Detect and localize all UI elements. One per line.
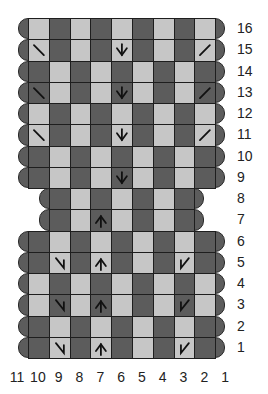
stitch-cell-dark — [49, 18, 71, 40]
stitch-cell-light — [153, 39, 175, 61]
row-number-label: 4 — [237, 276, 245, 290]
stitch-cell-light — [111, 294, 133, 316]
double-decrease-icon — [112, 168, 132, 188]
stitch-cell-dark — [153, 316, 175, 338]
stitch-cell-dark — [132, 188, 154, 210]
stitch-cell-dark — [132, 103, 154, 125]
stitch-cell-light — [174, 337, 196, 359]
row-number-label: 11 — [237, 127, 252, 141]
stitch-cell-light — [28, 39, 50, 61]
row-number-label: 10 — [237, 149, 253, 163]
stitch-cell-dark — [28, 167, 50, 189]
stitch-cell-dark — [70, 231, 92, 253]
stitch-cell-light — [174, 61, 196, 83]
stitch-cell-dark — [90, 39, 112, 61]
right-increase-icon — [50, 338, 70, 358]
double-increase-icon — [91, 210, 111, 230]
row-number-label: 14 — [237, 64, 253, 78]
stitch-cell-light — [111, 18, 133, 40]
column-number-label: 4 — [159, 370, 167, 384]
k2tog-decrease-icon — [195, 40, 215, 60]
stitch-cell-dark — [174, 39, 196, 61]
row-number-label: 15 — [237, 42, 253, 56]
stitch-cell-dark — [132, 273, 154, 295]
stitch-cell-dark — [174, 103, 196, 125]
stitch-cell-light — [153, 103, 175, 125]
stitch-cell-light — [194, 273, 216, 295]
double-decrease-icon — [112, 125, 132, 145]
stitch-cell-light — [28, 273, 50, 295]
knitting-chart: 161514131211109876543211110987654321 — [0, 0, 268, 394]
column-number-label: 6 — [117, 370, 125, 384]
right-increase-icon — [50, 253, 70, 273]
stitch-cell-light — [90, 167, 112, 189]
stitch-cell-dark — [194, 252, 216, 274]
column-number-label: 8 — [76, 370, 84, 384]
stitch-cell-dark — [28, 252, 50, 274]
stitch-cell-dark — [132, 39, 154, 61]
stitch-cell-dark — [153, 337, 175, 359]
stitch-cell-dark — [90, 124, 112, 146]
row-number-label: 7 — [237, 212, 245, 226]
column-number-label: 9 — [55, 370, 63, 384]
stitch-cell-dark — [28, 82, 50, 104]
stitch-cell-light — [90, 61, 112, 83]
double-decrease-icon — [112, 83, 132, 103]
row-number-label: 13 — [237, 85, 253, 99]
stitch-cell-dark — [174, 124, 196, 146]
row-number-label: 6 — [237, 234, 245, 248]
row-number-label: 8 — [237, 191, 245, 205]
stitch-cell-light — [49, 231, 71, 253]
double-increase-icon — [91, 295, 111, 315]
stitch-cell-light — [194, 103, 216, 125]
k2tog-decrease-icon — [195, 125, 215, 145]
row-number-label: 9 — [237, 170, 245, 184]
column-number-label: 5 — [138, 370, 146, 384]
stitch-cell-light — [194, 39, 216, 61]
column-number-label: 2 — [200, 370, 208, 384]
stitch-cell-dark — [174, 209, 196, 231]
stitch-cell-light — [111, 188, 133, 210]
stitch-cell-light — [49, 167, 71, 189]
row-number-label: 1 — [237, 340, 245, 354]
row-number-label: 5 — [237, 255, 245, 269]
stitch-cell-dark — [132, 124, 154, 146]
stitch-cell-light — [194, 124, 216, 146]
stitch-cell-dark — [174, 188, 196, 210]
stitch-cell-light — [49, 61, 71, 83]
stitch-cell-dark — [111, 82, 133, 104]
stitch-cell-light — [132, 231, 154, 253]
stitch-cell-dark — [28, 231, 50, 253]
stitch-cell-light — [153, 294, 175, 316]
stitch-cell-light — [132, 82, 154, 104]
ssk-decrease-icon — [29, 40, 49, 60]
stitch-cell-light — [49, 316, 71, 338]
stitch-cell-dark — [153, 61, 175, 83]
stitch-cell-light — [111, 103, 133, 125]
right-increase-icon — [50, 295, 70, 315]
stitch-cell-dark — [194, 146, 216, 168]
stitch-cell-light — [174, 231, 196, 253]
stitch-cell-light — [28, 103, 50, 125]
stitch-cell-light — [153, 273, 175, 295]
stitch-cell-light — [90, 82, 112, 104]
stitch-cell-dark — [90, 18, 112, 40]
stitch-cell-dark — [111, 146, 133, 168]
stitch-cell-dark — [132, 18, 154, 40]
stitch-cell-dark — [194, 231, 216, 253]
row-number-label: 12 — [237, 106, 253, 120]
stitch-cell-light — [132, 61, 154, 83]
stitch-cell-light — [174, 316, 196, 338]
ssk-decrease-icon — [29, 83, 49, 103]
stitch-cell-dark — [194, 61, 216, 83]
stitch-cell-dark — [111, 252, 133, 274]
stitch-cell-light — [90, 316, 112, 338]
stitch-cell-light — [70, 103, 92, 125]
stitch-cell-dark — [174, 273, 196, 295]
stitch-cell-dark — [174, 294, 196, 316]
stitch-cell-light — [90, 337, 112, 359]
stitch-cell-dark — [49, 39, 71, 61]
stitch-cell-dark — [90, 294, 112, 316]
double-increase-icon — [91, 338, 111, 358]
stitch-cell-dark — [194, 337, 216, 359]
